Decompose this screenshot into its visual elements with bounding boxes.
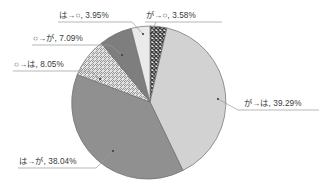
leader-dot-ha-to-maru: [142, 33, 144, 35]
pie-label-ga-to-maru: が→○, 3.58%: [146, 11, 196, 21]
pie-chart-screenshot: は→○, 3.95% が→○, 3.58% ○→が, 7.09% ○→は, 8.…: [0, 0, 319, 190]
leader-dot-maru-to-ha: [99, 78, 101, 80]
pie-label-ga-to-ha: が→は, 39.29%: [244, 99, 302, 109]
pie-label-maru-to-ga: ○→が, 7.09%: [33, 34, 83, 44]
leader-dot-maru-to-ga: [121, 54, 123, 56]
leader-dot-ga-to-maru: [150, 32, 152, 34]
leader-dot-ga-to-ha: [217, 98, 219, 100]
leader-dot-ha-to-ga: [112, 150, 114, 152]
pie-label-ha-to-ga: は→が, 38.04%: [19, 157, 77, 167]
pie-label-maru-to-ha: ○→は, 8.05%: [14, 60, 64, 70]
pie-label-ha-to-maru: は→○, 3.95%: [59, 11, 109, 21]
